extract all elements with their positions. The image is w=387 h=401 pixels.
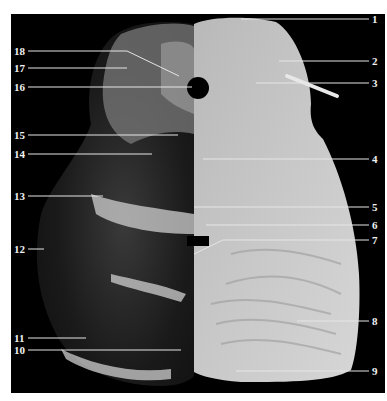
label-18: 18 — [14, 46, 25, 57]
label-2: 2 — [372, 56, 378, 67]
label-13: 13 — [14, 191, 25, 202]
label-1: 1 — [372, 14, 378, 25]
right-half-specimen — [194, 18, 360, 382]
label-10: 10 — [14, 345, 25, 356]
label-14: 14 — [14, 149, 25, 160]
dark-notch — [187, 236, 209, 246]
label-8: 8 — [372, 316, 378, 327]
label-12: 12 — [14, 244, 25, 255]
label-15: 15 — [14, 130, 25, 141]
label-16: 16 — [14, 82, 25, 93]
label-3: 3 — [372, 78, 378, 89]
specimen-illustration — [11, 14, 385, 393]
label-11: 11 — [14, 333, 24, 344]
label-6: 6 — [372, 220, 378, 231]
label-17: 17 — [14, 63, 25, 74]
label-7: 7 — [372, 235, 378, 246]
label-5: 5 — [372, 202, 378, 213]
central-foramen — [187, 77, 209, 99]
label-9: 9 — [372, 366, 378, 377]
specimen-image-frame: 18 17 16 15 14 13 12 11 10 1 2 3 4 5 6 7… — [11, 14, 385, 393]
label-4: 4 — [372, 154, 378, 165]
